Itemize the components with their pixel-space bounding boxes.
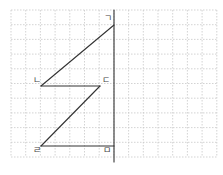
segment-ㄷ-ㄹ	[41, 86, 100, 146]
point-labels: ㄱㄴㄷㄹㅁ	[33, 13, 112, 155]
point-label: ㄱ	[104, 13, 112, 23]
point-label: ㄴ	[33, 75, 41, 85]
point-label: ㄷ	[102, 75, 110, 85]
point-label: ㅁ	[103, 145, 111, 155]
point-label: ㄹ	[33, 145, 41, 155]
geometry-diagram: ㄱㄴㄷㄹㅁ	[0, 0, 223, 175]
